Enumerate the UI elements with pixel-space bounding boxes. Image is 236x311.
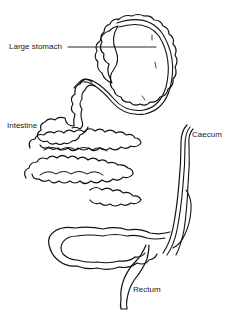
intestine-coils-row3	[90, 188, 141, 207]
digestive-tract-diagram: Large stomach Intestine Caecum Rectum	[0, 0, 236, 311]
intestine-coils-inner	[40, 148, 107, 176]
stomach-inner-band-2	[78, 24, 168, 110]
stomach-fold	[95, 26, 118, 83]
label-rectum: Rectum	[133, 286, 161, 294]
label-large-stomach: Large stomach	[9, 43, 62, 51]
intestine-upper	[37, 79, 92, 144]
label-intestine: Intestine	[7, 122, 37, 130]
rectum-tube	[121, 245, 150, 309]
label-caecum: Caecum	[192, 131, 222, 139]
intestine-coils-row2	[25, 156, 133, 184]
